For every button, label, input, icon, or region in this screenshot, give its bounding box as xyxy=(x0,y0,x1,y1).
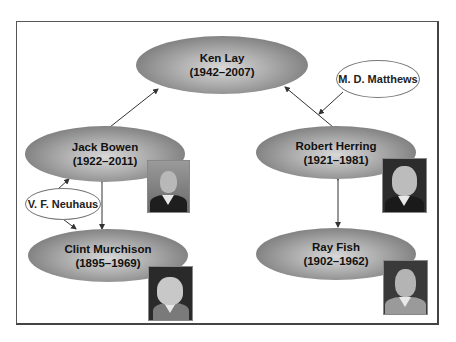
node-name: Robert Herring xyxy=(295,139,376,153)
node-name: Clint Murchison xyxy=(65,242,152,256)
node-name: Ray Fish xyxy=(312,240,360,254)
node-years: (1895–1969) xyxy=(75,256,140,270)
node-ken-lay: Ken Lay (1942–2007) xyxy=(136,36,308,94)
node-name: Jack Bowen xyxy=(72,140,138,154)
annotation-neuhaus: V. F. Neuhaus xyxy=(25,188,101,220)
annotation-label: M. D. Matthews xyxy=(338,73,417,85)
node-years: (1921–1981) xyxy=(303,153,368,167)
node-years: (1942–2007) xyxy=(189,65,254,79)
portrait-photo-robert-herring xyxy=(382,158,427,213)
annotation-label: V. F. Neuhaus xyxy=(28,198,99,210)
edge-kenlay-jackbowen xyxy=(110,89,158,127)
portrait-photo-ray-fish xyxy=(383,260,428,315)
node-years: (1922–2011) xyxy=(73,154,138,168)
annotation-matthews: M. D. Matthews xyxy=(336,60,420,98)
edge-matthews-annotation xyxy=(319,92,343,114)
portrait-photo-jack-bowen xyxy=(147,160,190,213)
edge-robertherring-kenlay xyxy=(285,87,333,127)
node-name: Ken Lay xyxy=(200,51,245,65)
node-years: (1902–1962) xyxy=(303,254,368,268)
portrait-photo-clint-murchison xyxy=(148,266,193,321)
